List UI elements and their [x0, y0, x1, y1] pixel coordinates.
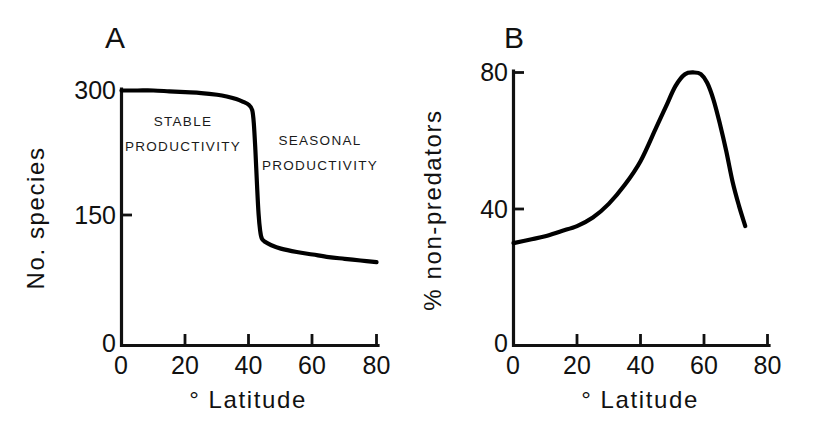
- panel-b-xlabel-40: 40: [627, 351, 655, 379]
- panel-b-axes: [514, 71, 770, 346]
- panel-a-y-axis-title: No. species: [22, 147, 49, 290]
- panel-a-xlabel-40: 40: [235, 351, 263, 379]
- panel-b-y-axis-title: % non-predators: [419, 109, 446, 310]
- annotation-seasonal-line1: SEASONAL: [278, 133, 361, 148]
- panel-a-xlabel-20: 20: [171, 351, 199, 379]
- panel-b: B 80 40 0 0 20 40 60 80 ° Latitude % non…: [411, 0, 823, 444]
- panel-a-xlabel-80: 80: [363, 351, 391, 379]
- panel-a: A 300 150 0 0 20 40 60 80 ° Latitude No.…: [0, 0, 412, 444]
- panel-b-xlabel-20: 20: [563, 351, 591, 379]
- panel-b-ylabel-80: 80: [480, 58, 508, 86]
- panel-b-data-curve: [514, 72, 746, 243]
- panel-a-ylabel-300: 300: [74, 76, 116, 104]
- panel-b-ylabel-40: 40: [480, 195, 508, 223]
- panel-b-x-axis-title: ° Latitude: [581, 386, 699, 413]
- panel-b-xlabel-0: 0: [506, 351, 520, 379]
- panel-a-letter: A: [105, 21, 125, 54]
- panel-b-plot: B 80 40 0 0 20 40 60 80 ° Latitude % non…: [411, 0, 823, 444]
- panel-b-xlabel-60: 60: [690, 351, 718, 379]
- annotation-stable-line2: PRODUCTIVITY: [125, 139, 241, 154]
- annotation-stable-line1: STABLE: [154, 114, 213, 129]
- panel-a-xlabel-0: 0: [114, 351, 128, 379]
- annotation-seasonal-line2: PRODUCTIVITY: [262, 158, 378, 173]
- panel-a-plot: A 300 150 0 0 20 40 60 80 ° Latitude No.…: [0, 0, 412, 444]
- panel-a-xlabel-60: 60: [298, 351, 326, 379]
- panel-b-xlabel-80: 80: [754, 351, 782, 379]
- panel-a-ylabel-150: 150: [74, 201, 116, 229]
- figure-container: A 300 150 0 0 20 40 60 80 ° Latitude No.…: [0, 0, 823, 444]
- panel-b-letter: B: [504, 21, 524, 54]
- panel-a-x-axis-title: ° Latitude: [189, 386, 307, 413]
